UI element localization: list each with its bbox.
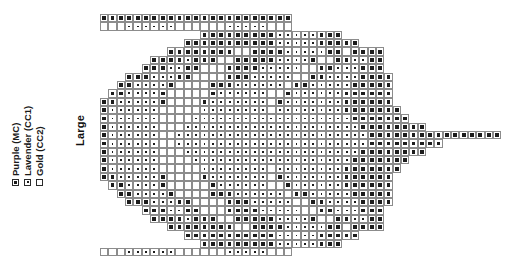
chart-cell-mc bbox=[376, 173, 384, 181]
chart-cell-cc1 bbox=[326, 139, 334, 147]
chart-cell-cc1 bbox=[284, 98, 292, 106]
chart-cell-mc bbox=[259, 231, 267, 239]
chart-cell-cc2 bbox=[192, 89, 200, 97]
chart-cell-cc2 bbox=[192, 73, 200, 81]
chart-cell-cc2 bbox=[175, 148, 183, 156]
chart-cell-cc1 bbox=[317, 181, 325, 189]
chart-cell-cc1 bbox=[309, 148, 317, 156]
chart-cell-cc1 bbox=[267, 73, 275, 81]
chart-cell-cc1 bbox=[192, 123, 200, 131]
chart-cell-mc bbox=[443, 131, 451, 139]
chart-cell-cc1 bbox=[225, 139, 233, 147]
chart-cell-mc bbox=[125, 198, 133, 206]
chart-cell-cc1 bbox=[317, 148, 325, 156]
chart-cell-cc1 bbox=[292, 231, 300, 239]
chart-cell-cc1 bbox=[209, 131, 217, 139]
chart-cell-mc bbox=[192, 56, 200, 64]
chart-cell-cc1 bbox=[167, 73, 175, 81]
chart-cell-cc1 bbox=[125, 106, 133, 114]
chart-cell-cc2 bbox=[167, 114, 175, 122]
chart-cell-empty bbox=[125, 231, 133, 239]
chart-cell-cc1 bbox=[301, 181, 309, 189]
chart-cell-cc2 bbox=[192, 181, 200, 189]
chart-cell-mc bbox=[167, 190, 175, 198]
chart-cell-cc1 bbox=[317, 223, 325, 231]
chart-cell-mc bbox=[209, 181, 217, 189]
chart-cell-empty bbox=[125, 223, 133, 231]
chart-cell-cc1 bbox=[142, 248, 150, 256]
chart-cell-mc bbox=[217, 31, 225, 39]
chart-cell-cc1 bbox=[175, 131, 183, 139]
chart-cell-mc bbox=[192, 223, 200, 231]
chart-cell-cc1 bbox=[192, 131, 200, 139]
chart-cell-mc bbox=[376, 56, 384, 64]
chart-cell-mc bbox=[368, 148, 376, 156]
chart-cell-empty bbox=[159, 31, 167, 39]
chart-cell-mc bbox=[159, 64, 167, 72]
chart-cell-cc1 bbox=[309, 164, 317, 172]
chart-cell-cc1 bbox=[326, 190, 334, 198]
chart-cell-mc bbox=[384, 123, 392, 131]
chart-cell-cc1 bbox=[117, 164, 125, 172]
chart-cell-cc1 bbox=[309, 123, 317, 131]
chart-cell-cc1 bbox=[309, 223, 317, 231]
chart-cell-mc bbox=[234, 231, 242, 239]
chart-cell-mc bbox=[376, 215, 384, 223]
chart-cell-mc bbox=[250, 206, 258, 214]
chart-cell-mc bbox=[209, 223, 217, 231]
chart-cell-mc bbox=[351, 223, 359, 231]
chart-cell-mc bbox=[184, 198, 192, 206]
chart-cell-cc1 bbox=[334, 198, 342, 206]
chart-cell-mc bbox=[309, 198, 317, 206]
chart-cell-mc bbox=[309, 215, 317, 223]
chart-cell-mc bbox=[142, 206, 150, 214]
chart-cell-mc bbox=[384, 198, 392, 206]
chart-cell-mc bbox=[100, 148, 108, 156]
chart-cell-cc1 bbox=[334, 181, 342, 189]
chart-cell-mc bbox=[317, 64, 325, 72]
chart-cell-mc bbox=[342, 231, 350, 239]
chart-cell-cc2 bbox=[192, 106, 200, 114]
chart-cell-cc1 bbox=[200, 131, 208, 139]
chart-cell-empty bbox=[150, 240, 158, 248]
chart-cell-cc1 bbox=[225, 114, 233, 122]
chart-cell-cc1 bbox=[342, 123, 350, 131]
chart-row bbox=[100, 47, 501, 55]
chart-cell-mc bbox=[359, 148, 367, 156]
chart-cell-cc1 bbox=[133, 173, 141, 181]
chart-cell-cc1 bbox=[225, 123, 233, 131]
chart-cell-cc1 bbox=[309, 139, 317, 147]
chart-cell-cc1 bbox=[259, 206, 267, 214]
chart-cell-mc bbox=[159, 56, 167, 64]
chart-cell-cc2 bbox=[175, 123, 183, 131]
chart-cell-cc2 bbox=[159, 139, 167, 147]
chart-cell-cc1 bbox=[267, 190, 275, 198]
chart-cell-cc1 bbox=[326, 164, 334, 172]
chart-cell-mc bbox=[225, 206, 233, 214]
chart-cell-cc1 bbox=[200, 139, 208, 147]
chart-cell-mc bbox=[334, 223, 342, 231]
chart-cell-mc bbox=[100, 173, 108, 181]
chart-cell-mc bbox=[159, 206, 167, 214]
chart-cell-cc1 bbox=[209, 148, 217, 156]
chart-cell-cc1 bbox=[334, 190, 342, 198]
chart-cell-cc1 bbox=[317, 164, 325, 172]
chart-row bbox=[100, 14, 501, 22]
chart-cell-cc1 bbox=[284, 215, 292, 223]
chart-cell-cc2 bbox=[175, 98, 183, 106]
chart-cell-cc1 bbox=[117, 123, 125, 131]
chart-cell-cc2 bbox=[200, 206, 208, 214]
chart-cell-mc bbox=[250, 231, 258, 239]
chart-cell-mc bbox=[242, 64, 250, 72]
chart-cell-cc1 bbox=[276, 156, 284, 164]
chart-cell-cc2 bbox=[292, 73, 300, 81]
chart-cell-cc1 bbox=[200, 123, 208, 131]
chart-cell-cc1 bbox=[276, 131, 284, 139]
chart-cell-cc1 bbox=[259, 190, 267, 198]
chart-cell-cc1 bbox=[234, 164, 242, 172]
chart-cell-cc2 bbox=[200, 89, 208, 97]
chart-cell-cc1 bbox=[217, 173, 225, 181]
chart-cell-mc bbox=[267, 14, 275, 22]
chart-cell-mc bbox=[150, 64, 158, 72]
chart-cell-mc bbox=[259, 240, 267, 248]
